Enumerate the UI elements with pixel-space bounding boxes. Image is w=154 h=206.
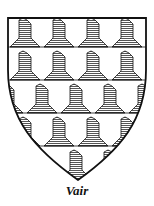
vair-shield — [0, 0, 154, 190]
shield-figure — [0, 0, 154, 190]
vair-field — [0, 0, 154, 190]
figure-caption: Vair — [0, 183, 154, 199]
